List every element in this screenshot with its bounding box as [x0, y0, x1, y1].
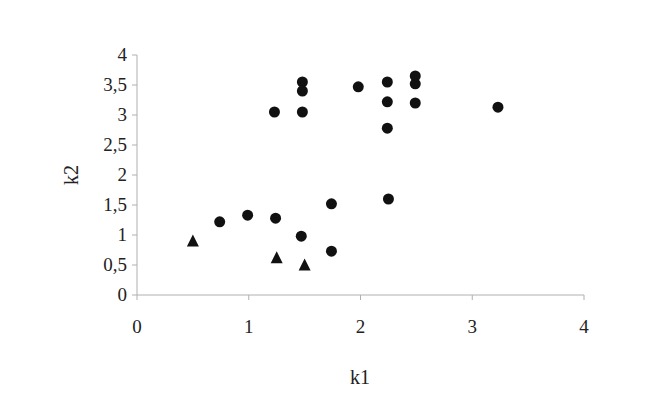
scatter-chart: 00,511,522,533,54 01234 k1 k2	[0, 0, 647, 415]
data-point-circle	[297, 86, 308, 97]
y-axis-title: k2	[60, 165, 82, 185]
y-tick-label: 3	[118, 104, 128, 125]
data-point-circle	[214, 216, 225, 227]
data-point-circle	[410, 78, 421, 89]
data-point-circle	[410, 98, 421, 109]
data-point-triangle	[299, 259, 311, 271]
x-axis-title: k1	[350, 366, 370, 388]
data-point-circle	[383, 194, 394, 205]
y-axis: 00,511,522,533,54	[103, 44, 137, 305]
y-tick-label: 1	[118, 224, 128, 245]
y-tick-label: 1,5	[103, 194, 127, 215]
x-tick-label: 3	[468, 316, 478, 337]
data-point-circle	[492, 102, 503, 113]
x-tick-label: 4	[579, 316, 589, 337]
data-point-circle	[297, 107, 308, 118]
y-tick-label: 3,5	[103, 74, 127, 95]
plot-area	[187, 71, 504, 271]
data-point-triangle	[187, 235, 199, 247]
y-tick-label: 2	[118, 164, 128, 185]
x-tick-label: 1	[244, 316, 254, 337]
data-point-circle	[382, 77, 393, 88]
x-tick-label: 0	[132, 316, 142, 337]
data-point-triangle	[271, 251, 283, 263]
y-tick-label: 0	[118, 284, 128, 305]
data-point-circle	[270, 213, 281, 224]
y-tick-label: 2,5	[103, 134, 127, 155]
data-point-circle	[382, 123, 393, 134]
data-point-circle	[296, 231, 307, 242]
x-axis: 01234	[132, 295, 589, 337]
data-point-circle	[269, 107, 280, 118]
data-point-circle	[242, 210, 253, 221]
data-point-circle	[326, 198, 337, 209]
y-tick-label: 0,5	[103, 254, 127, 275]
y-tick-label: 4	[118, 44, 128, 65]
data-point-circle	[353, 81, 364, 92]
x-tick-label: 2	[356, 316, 366, 337]
data-point-circle	[326, 246, 337, 257]
data-point-circle	[382, 96, 393, 107]
